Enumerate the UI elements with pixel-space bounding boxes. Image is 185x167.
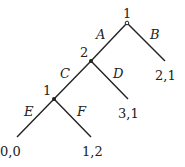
payoff-E: 0,0 <box>0 144 21 159</box>
root-player-label: 1 <box>123 6 131 21</box>
action-C: C <box>60 66 70 81</box>
payoff-B: 2,1 <box>155 68 176 83</box>
action-B: B <box>149 27 160 42</box>
game-tree: 1 2 1 A B C D E F 2,1 3,1 0,0 1,2 <box>0 0 185 167</box>
root-node <box>125 21 129 25</box>
node-player1 <box>52 97 56 101</box>
action-F: F <box>76 104 87 119</box>
action-D: D <box>112 66 124 81</box>
payoff-F: 1,2 <box>82 144 103 159</box>
node2-player-label: 2 <box>80 45 88 60</box>
action-E: E <box>23 104 34 119</box>
node3-player-label: 1 <box>43 83 51 98</box>
action-A: A <box>95 27 105 42</box>
payoff-D: 3,1 <box>118 106 139 121</box>
node-player2 <box>89 59 93 63</box>
edge-E <box>17 99 54 137</box>
